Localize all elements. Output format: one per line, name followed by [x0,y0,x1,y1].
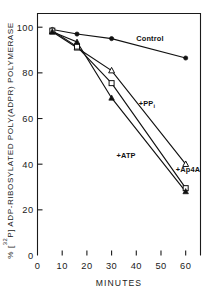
x-axis-title: MINUTES [96,278,142,288]
data-point-Control [75,32,79,36]
line-chart: 0102030405060020406080100MINUTES% [32P] … [0,0,211,296]
series-label-ATP: +ATP [117,151,136,160]
y-tick-label: 20 [22,205,33,215]
y-tick-label: 0 [28,251,34,261]
x-tick-label: 30 [106,261,117,271]
x-tick-label: 60 [180,261,191,271]
data-point-Control [184,56,188,60]
chart-figure: 0102030405060020406080100MINUTES% [32P] … [0,0,211,296]
series-label-Ap4A: +Ap4A [176,165,201,174]
x-tick-label: 50 [155,261,166,271]
data-point-Control [109,37,113,41]
series-label-Control: Control [136,34,163,43]
plot-frame [38,14,201,256]
series-label-PPi: +PPi [139,99,156,109]
y-tick-label: 40 [22,160,33,170]
series-line-PPi [52,32,185,164]
series-line-Ap4A [52,31,185,189]
data-point-PPi [109,67,115,73]
y-tick-label: 80 [22,68,33,78]
y-tick-label: 60 [22,114,33,124]
y-axis-title: % [32P] ADP-RIBOSYLATED POLY(ADPR) POLYM… [2,22,15,258]
x-tick-label: 40 [131,261,142,271]
x-tick-label: 10 [57,261,68,271]
data-point-Ap4A [109,81,114,86]
y-tick-label: 100 [17,23,34,33]
x-tick-label: 0 [35,261,41,271]
series-line-ATP [52,32,185,192]
x-tick-label: 20 [81,261,92,271]
data-point-Ap4A [75,44,80,49]
